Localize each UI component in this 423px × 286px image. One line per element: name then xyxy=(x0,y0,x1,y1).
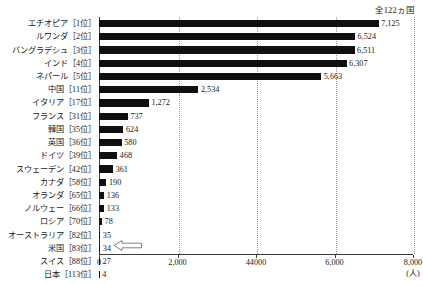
bar-wrapper: 133 xyxy=(99,202,413,215)
category-label: オランダ［65位］ xyxy=(0,191,96,200)
bar-value-label: 580 xyxy=(124,138,136,147)
bar-row: イタリア［17位］1,272 xyxy=(0,96,423,109)
bar-row: フランス［31位］737 xyxy=(0,110,423,123)
category-label: インド［4位］ xyxy=(0,59,96,68)
x-tick-label: 0 xyxy=(97,258,101,268)
bar xyxy=(99,99,149,106)
bar-value-label: 361 xyxy=(116,165,128,174)
bar-value-label: 7,125 xyxy=(381,19,399,28)
bar-wrapper: 624 xyxy=(99,123,413,136)
bar-wrapper: 6,511 xyxy=(99,43,413,56)
bar-chart: 全122ヵ国 エチオピア［1位］7,125ルワンダ［2位］6,524バングラデシ… xyxy=(0,0,423,286)
bar-row: エチオピア［1位］7,125 xyxy=(0,17,423,30)
bar-wrapper: 737 xyxy=(99,110,413,123)
bar-wrapper: 190 xyxy=(99,176,413,189)
bar-row: 米国［83位］34 xyxy=(0,242,423,255)
category-label: スウェーデン［42位］ xyxy=(0,165,96,174)
bar-value-label: 190 xyxy=(109,178,121,187)
bar-value-label: 34 xyxy=(103,244,111,253)
category-label: 米国［83位］ xyxy=(0,244,96,253)
bar-wrapper: 7,125 xyxy=(99,17,413,30)
bar xyxy=(99,60,347,67)
bar xyxy=(99,73,321,80)
bar-row: ルワンダ［2位］6,524 xyxy=(0,30,423,43)
bar xyxy=(99,113,128,120)
bar-wrapper: 468 xyxy=(99,149,413,162)
bar xyxy=(99,245,100,252)
bar xyxy=(99,126,123,133)
total-countries-note: 全122ヵ国 xyxy=(375,3,415,15)
bar-row: 韓国［35位］624 xyxy=(0,123,423,136)
bar-wrapper: 1,272 xyxy=(99,96,413,109)
category-label: 韓国［35位］ xyxy=(0,125,96,134)
bar xyxy=(99,86,198,93)
bar-row: 中国［11位］2,534 xyxy=(0,83,423,96)
bar-row: インド［4位］6,307 xyxy=(0,57,423,70)
bar xyxy=(99,205,104,212)
category-label: ドイツ［39位］ xyxy=(0,151,96,160)
bar xyxy=(99,232,100,239)
category-label: ネパール［5位］ xyxy=(0,72,96,81)
bar-wrapper: 34 xyxy=(99,242,413,255)
category-label: ルワンダ［2位］ xyxy=(0,32,96,41)
bar-value-label: 136 xyxy=(107,191,119,200)
bar-value-label: 6,307 xyxy=(349,59,367,68)
bar-value-label: 468 xyxy=(120,151,132,160)
bar-wrapper: 580 xyxy=(99,136,413,149)
category-label: カナダ［58位］ xyxy=(0,178,96,187)
left-arrow-icon xyxy=(113,239,143,252)
bar-row: ドイツ［39位］468 xyxy=(0,149,423,162)
category-label: 中国［11位］ xyxy=(0,85,96,94)
bar-wrapper: 35 xyxy=(99,229,413,242)
bar-wrapper: 136 xyxy=(99,189,413,202)
bar-value-label: 2,534 xyxy=(201,85,219,94)
x-tick-label: 6,000 xyxy=(325,258,343,268)
x-tick-label: 2,000 xyxy=(168,258,186,268)
x-tick-label: 44000 xyxy=(246,258,266,268)
category-label: オーストラリア［82位］ xyxy=(0,231,96,240)
x-axis-unit-label: (人) xyxy=(406,269,419,279)
category-label: ノルウェー［66位］ xyxy=(0,204,96,213)
category-label: エチオピア［1位］ xyxy=(0,19,96,28)
bar-row: オーストラリア［82位］35 xyxy=(0,229,423,242)
category-label: ロシア［70位］ xyxy=(0,217,96,226)
bar-wrapper: 6,307 xyxy=(99,57,413,70)
bar-value-label: 133 xyxy=(107,204,119,213)
bar-value-label: 1,272 xyxy=(151,98,169,107)
category-label: バングラデシュ［3位］ xyxy=(0,46,96,55)
bar-value-label: 5,663 xyxy=(324,72,342,81)
category-label: フランス［31位］ xyxy=(0,112,96,121)
bar-row: バングラデシュ［3位］6,511 xyxy=(0,43,423,56)
bar-value-label: 624 xyxy=(126,125,138,134)
bar-row: 英国［36位］580 xyxy=(0,136,423,149)
bar-value-label: 6,511 xyxy=(357,46,375,55)
bar-wrapper: 78 xyxy=(99,215,413,228)
bar-wrapper: 6,524 xyxy=(99,30,413,43)
bar-wrapper: 2,534 xyxy=(99,83,413,96)
bar-row: カナダ［58位］190 xyxy=(0,176,423,189)
x-tick-label: 8,000 xyxy=(404,258,422,268)
category-label: 英国［36位］ xyxy=(0,138,96,147)
bar-row: ロシア［70位］78 xyxy=(0,215,423,228)
bar xyxy=(99,179,106,186)
bar xyxy=(99,20,379,27)
bar-wrapper: 5,663 xyxy=(99,70,413,83)
bar-value-label: 78 xyxy=(105,217,113,226)
bar xyxy=(99,165,113,172)
category-label: イタリア［17位］ xyxy=(0,98,96,107)
bar xyxy=(99,152,117,159)
bar-row: ネパール［5位］5,663 xyxy=(0,70,423,83)
bar-value-label: 6,524 xyxy=(358,32,376,41)
bar-row: オランダ［65位］136 xyxy=(0,189,423,202)
bar xyxy=(99,46,355,53)
bar-rows: エチオピア［1位］7,125ルワンダ［2位］6,524バングラデシュ［3位］6,… xyxy=(0,17,423,255)
bar xyxy=(99,218,102,225)
bar-value-label: 35 xyxy=(103,231,111,240)
bar xyxy=(99,33,355,40)
bar-row: ノルウェー［66位］133 xyxy=(0,202,423,215)
bar-wrapper: 361 xyxy=(99,162,413,175)
bar-value-label: 737 xyxy=(130,112,142,121)
bar xyxy=(99,139,122,146)
bar-row: スウェーデン［42位］361 xyxy=(0,162,423,175)
bar xyxy=(99,192,104,199)
